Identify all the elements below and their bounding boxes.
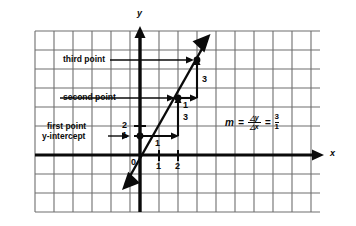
rise-label-two: 3	[202, 75, 207, 84]
diagram-canvas: y x 0 1 2 1 2 third point second point f…	[0, 0, 356, 226]
coordinate-plane-graphic	[0, 0, 356, 226]
formula-equals-2: =	[265, 117, 271, 128]
origin-label: 0	[131, 158, 136, 167]
callout-first-point: first point	[47, 122, 86, 131]
callout-second-point: second point	[63, 93, 116, 102]
point-second	[175, 95, 182, 102]
point-third	[194, 57, 201, 64]
formula-delta-y: △y	[248, 114, 261, 121]
formula-delta-x: △x	[248, 123, 261, 130]
run-label-two: 1	[183, 101, 188, 110]
y-tick-label-1: 1	[122, 131, 127, 140]
point-first	[137, 133, 144, 140]
rise-run-step-two	[178, 58, 201, 102]
rise-label-one: 3	[183, 113, 188, 122]
rise-run-step-one	[140, 96, 182, 140]
y-axis-label: y	[137, 9, 142, 18]
callout-y-intercept: y-intercept	[42, 132, 85, 141]
formula-equals-1: =	[238, 117, 244, 128]
callout-third-point: third point	[63, 55, 105, 64]
run-label-one: 1	[155, 139, 160, 148]
x-tick-label-1: 1	[156, 162, 161, 171]
y-tick-label-2: 2	[122, 121, 127, 130]
x-axis-label: x	[330, 149, 335, 158]
formula-rise: 3	[275, 113, 279, 121]
formula-m: m	[225, 117, 234, 128]
formula-value-fraction: 3 1	[275, 113, 279, 132]
x-tick-label-2: 2	[175, 162, 180, 171]
x-axis	[35, 150, 324, 161]
slope-formula: m = △y △x = 3 1	[225, 113, 279, 132]
formula-run: 1	[275, 123, 279, 131]
formula-delta-fraction: △y △x	[248, 114, 261, 131]
